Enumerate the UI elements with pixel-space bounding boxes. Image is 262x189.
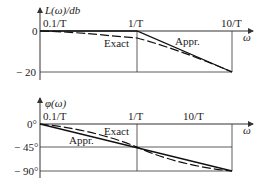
magnitude-approx-curve xyxy=(40,31,232,72)
magnitude-ytick-0: 0 xyxy=(32,25,38,37)
phase-y-label: φ(ω) xyxy=(45,97,67,110)
magnitude-appr-label: Appr. xyxy=(175,35,200,47)
phase-x-label: ω xyxy=(243,124,251,136)
phase-ytick-0: 0° xyxy=(27,118,37,130)
phase-exact-label: Exact xyxy=(104,125,129,137)
phase-xtick-1T: 1/T xyxy=(128,110,144,122)
phase-ytick-minus90: − 90° xyxy=(14,165,38,177)
magnitude-exact-label: Exact xyxy=(104,37,129,49)
magnitude-xtick-1T: 1/T xyxy=(128,17,144,29)
phase-xtick-10T: 10/T xyxy=(183,110,204,122)
phase-approx-curve xyxy=(40,124,232,171)
phase-plot: φ(ω) 0.1/T 1/T 10/T ω 0° − 45° − 90° Exa… xyxy=(14,97,253,178)
phase-xtick-0.1T: 0.1/T xyxy=(43,110,67,122)
magnitude-xtick-10T: 10/T xyxy=(221,17,242,29)
magnitude-ytick-minus20: − 20 xyxy=(16,66,36,78)
magnitude-x-label: ω xyxy=(243,31,251,43)
magnitude-y-label: L(ω)/db xyxy=(44,4,81,17)
magnitude-exact-curve xyxy=(40,31,232,72)
phase-appr-label: Appr. xyxy=(69,134,94,146)
magnitude-xtick-0.1T: 0.1/T xyxy=(43,17,67,29)
bode-diagram: L(ω)/db 0.1/T 1/T 10/T ω 0 − 20 Exact Ap… xyxy=(0,0,262,189)
phase-ytick-minus45: − 45° xyxy=(14,141,38,153)
magnitude-plot: L(ω)/db 0.1/T 1/T 10/T ω 0 − 20 Exact Ap… xyxy=(16,4,253,80)
